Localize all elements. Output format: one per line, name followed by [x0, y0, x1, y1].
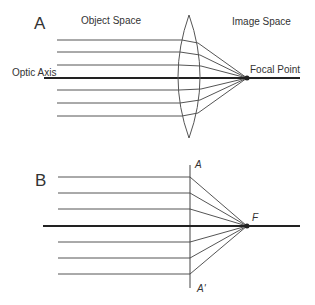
optics-diagram [0, 0, 315, 305]
object-space-label: Object Space [81, 15, 141, 26]
panel-a-focal-point [245, 76, 250, 81]
optic-axis-label: Optic Axis [12, 67, 56, 78]
panel-a-label: A [34, 14, 45, 34]
image-space-label: Image Space [232, 16, 291, 27]
panel-b-focal-point [245, 224, 250, 229]
plane-top-label: A [195, 159, 202, 170]
lens-icon [178, 15, 200, 138]
panel-b-label: B [35, 171, 46, 191]
plane-bottom-label: A' [197, 283, 206, 294]
focal-label: F [252, 212, 258, 223]
focal-point-label: Focal Point [250, 64, 300, 75]
